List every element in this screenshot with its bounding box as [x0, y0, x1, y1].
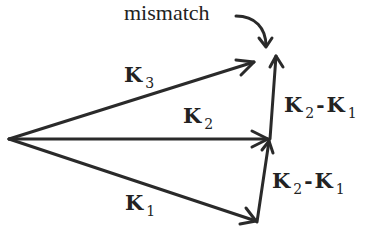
diff-upper-minus: -: [316, 93, 324, 117]
vector-k2-minus-k1-upper: [270, 56, 276, 139]
diff-upper-a-base: K: [284, 92, 302, 117]
diff-lower-b-sub: 1: [336, 181, 345, 197]
label-k3-sub: 3: [145, 75, 154, 91]
label-k1-base: K: [125, 190, 143, 215]
label-k2: K2: [183, 103, 213, 128]
diff-lower-b-base: K: [315, 168, 333, 193]
mismatch-label: mismatch: [124, 0, 210, 26]
diff-upper-b-base: K: [327, 92, 345, 117]
label-diff-upper: K2-K1: [284, 92, 357, 117]
diff-upper-a-sub: 2: [305, 105, 314, 121]
diff-upper-b-sub: 1: [348, 105, 357, 121]
label-k1-sub: 1: [146, 203, 155, 219]
diff-lower-a-sub: 2: [293, 181, 302, 197]
vector-k2-minus-k1-lower: [257, 141, 269, 222]
label-k2-sub: 2: [204, 116, 213, 132]
diff-lower-minus: -: [304, 169, 312, 193]
label-k3-base: K: [124, 62, 142, 87]
label-k2-base: K: [183, 103, 201, 128]
label-k3: K3: [124, 62, 154, 87]
label-diff-lower: K2-K1: [272, 168, 345, 193]
label-k1: K1: [125, 190, 155, 215]
diff-lower-a-base: K: [272, 168, 290, 193]
